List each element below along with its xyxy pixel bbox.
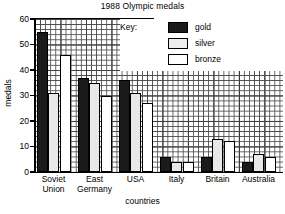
bar-gold-usa	[119, 80, 130, 172]
bar-bronze-usa	[142, 103, 153, 172]
x-label-line: Germany	[69, 184, 121, 194]
bar-bronze-italy	[183, 162, 194, 172]
chart-title: 1988 Olympic medals	[0, 1, 285, 11]
bar-chart: 1988 Olympic medals 0102030405060 medals…	[0, 0, 285, 214]
bar-bronze-east-germany	[101, 96, 112, 173]
bar-gold-east-germany	[78, 78, 89, 172]
x-axis-title: countries	[0, 196, 285, 206]
bar-bronze-australia	[265, 157, 276, 172]
bar-silver-usa	[130, 93, 141, 172]
legend-swatch-gold	[168, 22, 188, 33]
legend: Key: goldsilverbronze	[120, 19, 285, 71]
y-axis-title: medals	[3, 63, 13, 123]
legend-swatch-silver	[168, 38, 188, 49]
bar-silver-australia	[253, 154, 264, 172]
legend-swatch-bronze	[168, 54, 188, 65]
bar-gold-italy	[160, 157, 171, 172]
bar-silver-italy	[171, 162, 182, 172]
bar-gold-britain	[201, 157, 212, 172]
x-label-australia: Australia	[233, 174, 285, 184]
legend-title: Key:	[120, 22, 137, 32]
legend-label-gold: gold	[195, 23, 211, 32]
y-tick-label-50: 50	[0, 40, 29, 49]
y-tick-label-0: 0	[0, 168, 29, 177]
legend-label-bronze: bronze	[195, 55, 221, 64]
bar-gold-australia	[242, 162, 253, 172]
legend-label-silver: silver	[195, 39, 215, 48]
bar-gold-soviet-union	[37, 32, 48, 172]
bar-silver-britain	[212, 139, 223, 172]
bar-bronze-britain	[224, 141, 235, 172]
bar-bronze-soviet-union	[60, 55, 71, 172]
bar-silver-soviet-union	[48, 93, 59, 172]
x-label-line: Australia	[233, 174, 285, 184]
bar-silver-east-germany	[89, 83, 100, 172]
y-tick-label-60: 60	[0, 15, 29, 24]
y-tick-label-10: 10	[0, 142, 29, 151]
